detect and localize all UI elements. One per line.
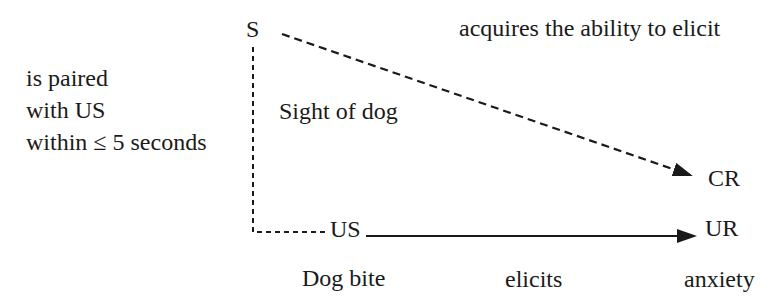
s-to-us-dashed-connector (253, 47, 327, 232)
us-name-label: Dog bite (302, 266, 385, 290)
pairing-note: is paired with US within ≤ 5 seconds (26, 62, 207, 158)
cr-symbol-label: CR (708, 166, 740, 190)
ur-symbol-label: UR (705, 216, 738, 240)
us-symbol-label: US (330, 217, 361, 241)
response-name-label: anxiety (684, 267, 755, 291)
pairing-note-line2: with US (26, 94, 207, 126)
pairing-note-line1: is paired (26, 62, 207, 94)
acquires-note: acquires the ability to elicit (459, 16, 720, 40)
conditioning-diagram: S US CR UR is paired with US within ≤ 5 … (0, 0, 784, 307)
cs-name-label: Sight of dog (279, 99, 398, 123)
elicits-label: elicits (505, 267, 562, 291)
pairing-note-line3: within ≤ 5 seconds (26, 126, 207, 158)
cs-symbol-label: S (246, 17, 259, 41)
